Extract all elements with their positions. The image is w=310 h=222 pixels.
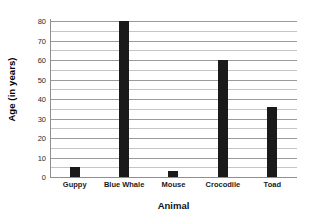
x-axis-tick-label: Toad [264, 180, 281, 189]
bar-chart: Age (in years) 01020304050607080 GuppyBl… [0, 0, 310, 222]
y-axis-title: Age (in years) [0, 0, 22, 178]
y-axis-tick-label: 60 [22, 56, 46, 65]
bar [70, 167, 80, 177]
x-axis-tick-label: Crocodile [206, 180, 241, 189]
y-axis-tick-label: 0 [22, 173, 46, 182]
y-axis-tick-label: 80 [22, 17, 46, 26]
x-axis-tick-label: Guppy [63, 180, 87, 189]
x-axis-tick-labels: GuppyBlue WhaleMouseCrocodileToad [50, 180, 297, 194]
x-axis-title: Animal [50, 200, 297, 211]
bar [218, 60, 228, 177]
y-axis-tick-label: 10 [22, 153, 46, 162]
y-axis-tick-label: 20 [22, 134, 46, 143]
bar [168, 171, 178, 177]
y-axis-tick-label: 50 [22, 75, 46, 84]
y-axis-tick-label: 70 [22, 36, 46, 45]
bar-slot [99, 21, 148, 177]
bars-layer [50, 21, 297, 177]
bar [267, 107, 277, 177]
bar-slot [248, 21, 297, 177]
y-axis-tick-labels: 01020304050607080 [22, 21, 46, 177]
y-axis-tick-label: 40 [22, 95, 46, 104]
x-axis-tick-label: Blue Whale [104, 180, 144, 189]
bar [119, 21, 129, 177]
y-axis-tick-label: 30 [22, 114, 46, 123]
x-axis-line [50, 177, 297, 178]
y-axis-title-label: Age (in years) [6, 57, 17, 121]
bar-slot [149, 21, 198, 177]
bar-slot [50, 21, 99, 177]
bar-slot [198, 21, 247, 177]
x-axis-tick-label: Mouse [162, 180, 186, 189]
